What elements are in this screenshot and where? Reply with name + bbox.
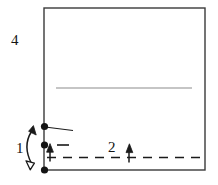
up-arrow-2-head bbox=[126, 144, 133, 153]
callout-label-1: 1 bbox=[16, 140, 24, 156]
leader-line-top bbox=[45, 127, 73, 131]
double-headed-arrow-1 bbox=[27, 132, 32, 164]
arrow-head-down-hollow bbox=[26, 161, 34, 170]
node-top bbox=[41, 123, 48, 130]
diagram-figure: 4 1 2 bbox=[0, 0, 218, 185]
diagram-canvas: 4 1 2 bbox=[0, 0, 218, 185]
node-bottom bbox=[41, 166, 48, 173]
callout-label-4: 4 bbox=[11, 32, 19, 48]
callout-label-2: 2 bbox=[108, 139, 116, 155]
node-middle bbox=[41, 141, 48, 148]
